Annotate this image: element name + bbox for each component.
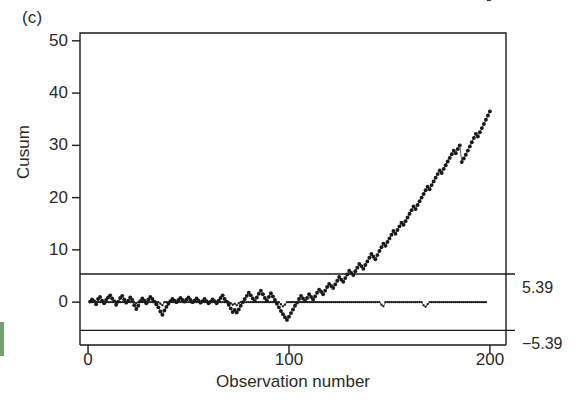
data-point xyxy=(324,301,326,303)
data-point xyxy=(458,143,462,147)
data-point xyxy=(240,301,242,303)
data-point xyxy=(400,301,402,303)
data-point xyxy=(284,304,286,306)
data-point xyxy=(302,301,304,303)
data-point xyxy=(314,301,316,303)
data-point xyxy=(432,179,436,183)
data-point xyxy=(187,301,189,303)
upper-control-limit-label: 5.39 xyxy=(522,279,553,297)
data-point xyxy=(105,301,107,303)
data-point xyxy=(298,301,300,303)
data-point xyxy=(412,301,414,303)
data-point xyxy=(268,301,270,303)
data-point xyxy=(343,276,347,280)
data-point xyxy=(479,301,481,303)
data-point xyxy=(246,301,248,303)
y-tick-label: 30 xyxy=(34,135,68,155)
data-point xyxy=(383,244,387,248)
data-point xyxy=(322,301,324,303)
y-tick-label: 10 xyxy=(34,240,68,260)
x-tick-label: 100 xyxy=(259,350,319,370)
data-point xyxy=(207,301,209,303)
data-point xyxy=(426,303,428,305)
data-point xyxy=(470,140,474,144)
data-point xyxy=(175,301,177,303)
data-point xyxy=(101,301,103,303)
data-point xyxy=(456,147,460,151)
data-point xyxy=(465,301,467,303)
data-point xyxy=(420,301,422,303)
lower-control-limit-label: −5.39 xyxy=(522,335,562,353)
data-point xyxy=(346,301,348,303)
data-point xyxy=(304,301,306,303)
data-point xyxy=(326,301,328,303)
data-point xyxy=(261,292,265,296)
data-point xyxy=(91,301,93,303)
data-point xyxy=(199,301,201,303)
data-point xyxy=(139,301,141,303)
data-point xyxy=(373,257,377,261)
data-point xyxy=(183,301,185,303)
data-point xyxy=(341,280,345,284)
data-point xyxy=(463,301,465,303)
data-point xyxy=(259,289,263,293)
x-tick-label: 200 xyxy=(460,350,520,370)
data-point xyxy=(272,301,274,303)
y-tick-label: 20 xyxy=(34,188,68,208)
data-point xyxy=(444,163,448,167)
data-point xyxy=(131,301,133,303)
data-point xyxy=(436,172,440,176)
data-point xyxy=(434,176,438,180)
data-point xyxy=(328,301,330,303)
data-point xyxy=(392,301,394,303)
data-point xyxy=(113,301,115,303)
data-point xyxy=(310,301,312,303)
data-point xyxy=(345,273,349,277)
data-point xyxy=(305,296,309,300)
data-point xyxy=(464,153,468,157)
data-point xyxy=(342,301,344,303)
data-point xyxy=(361,267,365,271)
data-point xyxy=(280,303,282,305)
data-point xyxy=(330,301,332,303)
data-point xyxy=(123,301,125,303)
data-point xyxy=(331,286,335,290)
data-point xyxy=(446,160,450,164)
data-point xyxy=(153,301,155,303)
data-point xyxy=(370,301,372,303)
data-point xyxy=(451,301,453,303)
data-point xyxy=(482,122,486,126)
data-point xyxy=(321,292,325,296)
data-point xyxy=(379,245,383,249)
data-point xyxy=(135,302,137,304)
data-point xyxy=(159,303,161,305)
data-point xyxy=(267,295,271,299)
data-point xyxy=(155,301,157,303)
data-point xyxy=(244,301,246,303)
data-point xyxy=(195,301,197,303)
data-point xyxy=(290,301,292,303)
data-point xyxy=(468,144,472,148)
data-point xyxy=(320,301,322,303)
data-point xyxy=(475,301,477,303)
data-point xyxy=(362,301,364,303)
data-point xyxy=(360,301,362,303)
data-point xyxy=(462,156,466,160)
data-point xyxy=(406,301,408,303)
data-point xyxy=(377,249,381,253)
data-point xyxy=(375,253,379,257)
data-point xyxy=(467,301,469,303)
data-point xyxy=(248,301,250,303)
data-point xyxy=(402,223,406,227)
data-point xyxy=(191,301,193,303)
data-point xyxy=(355,266,359,270)
data-point xyxy=(234,303,236,305)
data-point xyxy=(93,301,95,303)
data-point xyxy=(271,294,275,298)
data-point xyxy=(287,315,291,319)
data-point xyxy=(232,304,234,306)
data-point xyxy=(480,126,484,130)
data-point xyxy=(316,301,318,303)
data-point xyxy=(254,301,256,303)
y-axis-ticks xyxy=(72,41,80,302)
